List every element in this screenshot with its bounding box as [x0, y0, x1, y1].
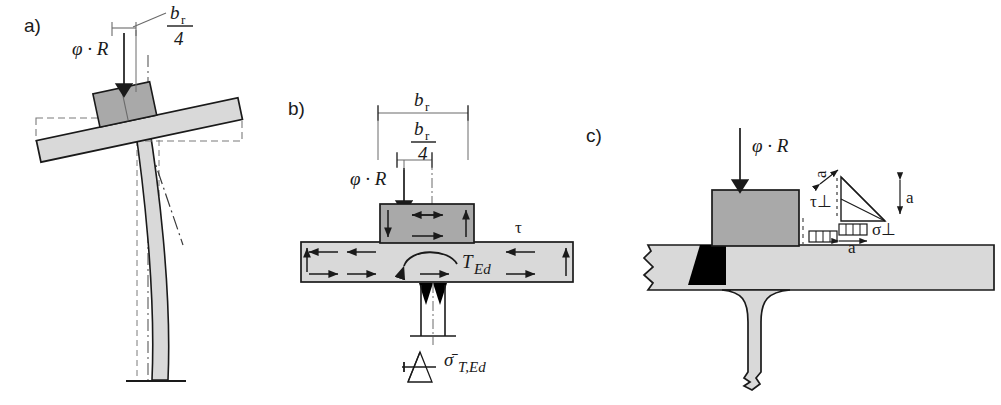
panel-a-dim-denominator: 4: [174, 28, 184, 49]
panel-a-dim-subscript: r: [181, 12, 186, 27]
panel-b: b) b r b r 4 φ · R: [288, 89, 573, 382]
panel-b-stress-subscript: T,Ed: [458, 359, 486, 375]
panel-a-dim-leader: [133, 13, 166, 27]
figure-canvas: a) φ · R: [0, 0, 1001, 405]
panel-b-plate: [301, 242, 573, 282]
panel-b-quarter-numerator: b: [414, 118, 424, 139]
panel-a-dim-numerator: b: [170, 2, 180, 23]
panel-c-block: [712, 190, 799, 246]
panel-a-dimension-fraction: b r 4: [167, 2, 193, 49]
panel-b-width-subscript: r: [425, 99, 430, 114]
panel-a-load-label: φ · R: [72, 38, 109, 59]
panel-c-throat-label-bottom: a: [848, 238, 856, 257]
panel-b-width-symbol: b: [414, 89, 424, 110]
panel-b-shear-label: τ: [515, 218, 522, 237]
panel-b-quarter-fraction: b r 4: [411, 118, 436, 164]
panel-b-stress-sketch: [402, 352, 436, 382]
engineering-diagram: a) φ · R: [0, 0, 1001, 405]
panel-c: c) φ · R a: [586, 125, 994, 390]
panel-c-throat-label-vertical: a: [906, 188, 914, 207]
panel-c-weld-symbol-box: [809, 231, 837, 242]
panel-c-shear-perp-label: τ⊥: [810, 192, 832, 211]
panel-c-weld-throat-detail: a τ⊥ a σ⊥ a: [810, 170, 914, 257]
panel-c-load-label: φ · R: [752, 135, 789, 156]
panel-b-torsion-symbol: T: [462, 251, 474, 272]
panel-c-throat-label-top: a: [811, 170, 830, 178]
panel-b-quarter-subscript: r: [425, 128, 430, 143]
panel-b-block: [380, 204, 474, 243]
panel-b-torsion-subscript: Ed: [473, 261, 491, 277]
panel-b-stress-symbol: σ̄: [444, 349, 458, 370]
panel-c-throat-mid-line: [841, 199, 885, 221]
panel-a: a) φ · R: [24, 2, 242, 382]
panel-c-label: c): [586, 125, 602, 146]
panel-b-stress-label: σ̄ T,Ed: [444, 349, 486, 375]
panel-b-label: b): [288, 98, 305, 119]
panel-a-label: a): [24, 15, 41, 36]
panel-b-quarter-denominator: 4: [418, 143, 428, 164]
panel-c-normal-perp-label: σ⊥: [872, 220, 896, 239]
panel-c-web: [722, 290, 790, 390]
panel-c-throat-hypotenuse: [841, 177, 885, 221]
panel-b-load-label: φ · R: [350, 168, 387, 189]
panel-b-width-label: b r: [414, 89, 430, 114]
panel-a-buckled-column: [134, 118, 169, 380]
